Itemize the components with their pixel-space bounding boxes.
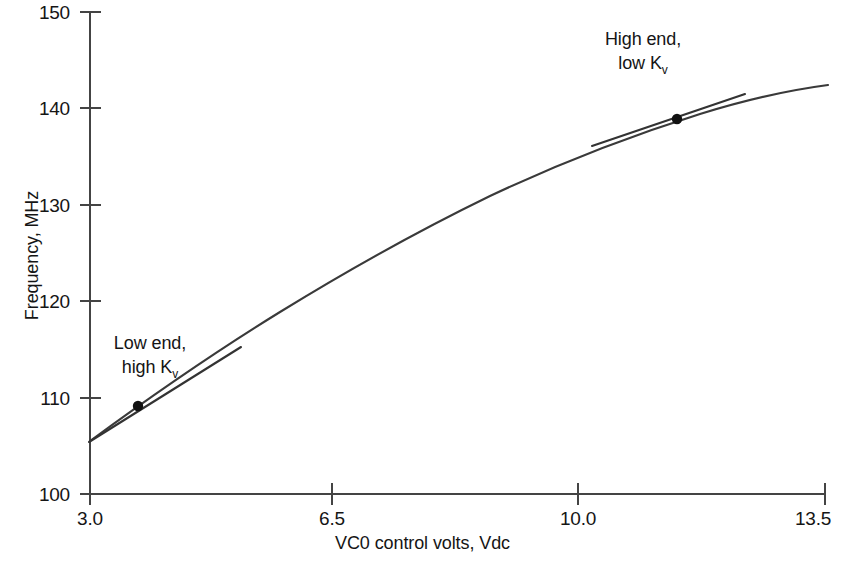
- plot-canvas: [0, 0, 845, 561]
- x-axis-title: VC0 control volts, Vdc: [0, 533, 845, 554]
- x-tick-label-13-5: 13.5: [782, 508, 844, 530]
- low-end-marker: [133, 401, 143, 411]
- annotation-high-end-line2-text: low K: [618, 53, 662, 73]
- y-tick-label-100: 100: [8, 484, 70, 506]
- annotation-low-end-line2-text: high K: [122, 357, 172, 377]
- y-tick-label-140: 140: [8, 98, 70, 120]
- x-tick-label-6-5: 6.5: [292, 508, 372, 530]
- x-tick-label-3-0: 3.0: [50, 508, 130, 530]
- annotation-low-end-subscript: v: [172, 366, 178, 380]
- annotation-low-end-line2: high Kv: [90, 356, 210, 382]
- y-axis-title: Frequency, MHz: [22, 126, 43, 386]
- vco-tuning-curve-figure: 150 140 130 120 110 100 3.0 6.5 10.0 13.…: [0, 0, 845, 561]
- annotation-low-end: Low end, high Kv: [90, 332, 210, 382]
- vco-tuning-curve: [90, 85, 828, 441]
- annotation-high-end-subscript: v: [662, 62, 668, 76]
- annotation-high-end: High end, low Kv: [578, 28, 708, 78]
- high-end-tangent-line: [592, 94, 745, 146]
- annotation-high-end-line2: low Kv: [578, 52, 708, 78]
- annotation-low-end-line1: Low end,: [90, 332, 210, 356]
- y-tick-label-150: 150: [8, 2, 70, 24]
- annotation-high-end-line1: High end,: [578, 28, 708, 52]
- y-tick-label-110: 110: [8, 388, 70, 410]
- high-end-marker: [672, 114, 682, 124]
- x-tick-label-10-0: 10.0: [536, 508, 620, 530]
